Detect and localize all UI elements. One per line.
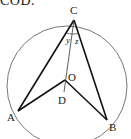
angle-arc-z — [72, 33, 78, 34]
label-C: C — [70, 4, 77, 16]
label-D: D — [58, 94, 66, 106]
label-O: O — [68, 71, 76, 83]
label-A: A — [7, 111, 15, 123]
angle-label-z: z — [74, 36, 79, 46]
label-B: B — [109, 121, 116, 133]
circle-geometry-diagram: C O D A B y z — [0, 0, 131, 139]
angle-label-y: y — [65, 35, 70, 45]
angle-arc-y — [67, 33, 73, 34]
